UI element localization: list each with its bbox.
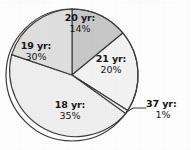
pie-chart: 20 yr: 14% 21 yr: 20% 37 yr: 1% 18 yr: 3… xyxy=(0,0,191,150)
pie-label-37-yr: 37 yr: 1% xyxy=(146,99,190,120)
pie-label-18-yr: 18 yr: 35% xyxy=(46,100,94,121)
pie-label-21-yr: 21 yr: 20% xyxy=(88,54,134,75)
pie-label-19-yr-value: 30% xyxy=(12,52,60,63)
pie-label-20-yr-value: 14% xyxy=(57,24,103,35)
pie-label-18-yr-value: 35% xyxy=(46,111,94,122)
pie-label-20-yr: 20 yr: 14% xyxy=(57,13,103,34)
pie-label-19-yr: 19 yr: 30% xyxy=(12,41,60,62)
pie-label-37-yr-value: 1% xyxy=(146,110,190,121)
pie-label-21-yr-value: 20% xyxy=(88,65,134,76)
callout-leader-line-37-yr xyxy=(127,108,146,112)
